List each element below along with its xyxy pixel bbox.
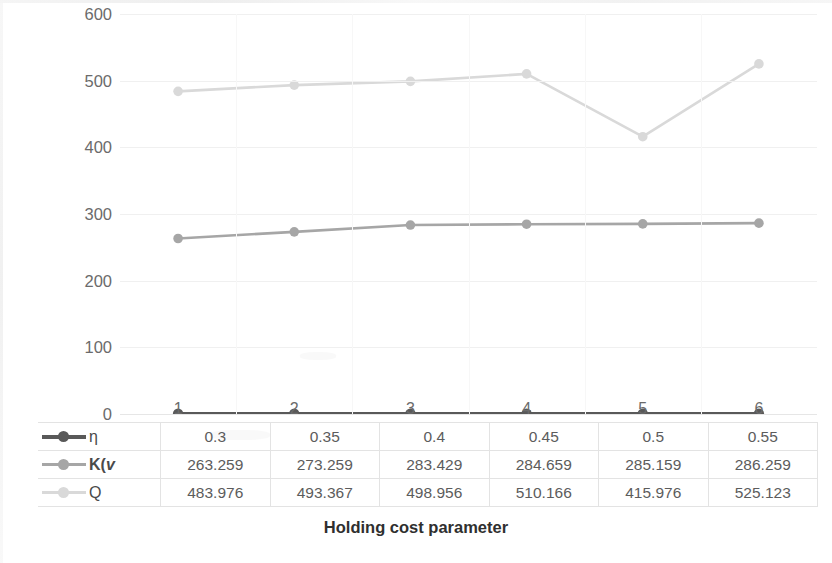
- table-row: η0.30.350.40.450.50.55: [38, 423, 818, 451]
- legend-marker-icon: [42, 487, 86, 499]
- x-axis-tick-label: 3: [390, 400, 430, 418]
- x-axis-tick-label: 6: [739, 400, 779, 418]
- vertical-gridline: [236, 14, 237, 414]
- legend-kv-variable: v: [106, 456, 115, 473]
- table-cell-value: 285.159: [599, 451, 709, 479]
- x-axis-tick-label: 5: [623, 400, 663, 418]
- table-cell-value: 415.976: [599, 479, 709, 507]
- x-axis-title: Holding cost parameter: [0, 518, 832, 537]
- legend-kv-prefix: K(: [89, 456, 106, 473]
- scan-artifact-top: [0, 0, 832, 3]
- table-cell-value: 263.259: [161, 451, 271, 479]
- vertical-gridline: [469, 14, 470, 414]
- vertical-gridline: [352, 14, 353, 414]
- table-cell-value: 273.259: [270, 451, 380, 479]
- table-row: Q483.976493.367498.956510.166415.976525.…: [38, 479, 818, 507]
- legend-marker-icon: [42, 459, 86, 471]
- legend-cell: Q: [38, 479, 161, 507]
- y-axis-tick-label: 500: [60, 72, 112, 89]
- data-point-marker: [638, 132, 648, 142]
- data-point-marker: [173, 87, 183, 97]
- table-cell-value: 283.429: [380, 451, 490, 479]
- table-cell-value: 0.55: [708, 423, 818, 451]
- table-cell-value: 0.35: [270, 423, 380, 451]
- y-axis-tick-label: 200: [60, 272, 112, 289]
- legend-marker-icon: [42, 431, 86, 443]
- data-point-marker: [173, 234, 183, 244]
- legend-series-name: K(v: [89, 456, 115, 474]
- vertical-gridline: [585, 14, 586, 414]
- table-cell-value: 498.956: [380, 479, 490, 507]
- table-cell-value: 286.259: [708, 451, 818, 479]
- vertical-gridline: [701, 14, 702, 414]
- table-cell-value: 0.45: [489, 423, 599, 451]
- x-axis-tick-label: 4: [507, 400, 547, 418]
- legend-cell: η: [38, 423, 161, 451]
- y-axis-tick-label: 300: [60, 206, 112, 223]
- data-point-marker: [522, 219, 532, 229]
- chart-data-table: η0.30.350.40.450.50.55K(v263.259273.2592…: [38, 422, 818, 507]
- y-axis-tick-label: 0: [60, 406, 112, 423]
- y-axis-tick-label: 600: [60, 6, 112, 23]
- legend-series-name: Q: [89, 484, 101, 502]
- data-point-marker: [522, 69, 532, 79]
- plot-area: [120, 14, 817, 414]
- table-row: K(v263.259273.259283.429284.659285.15928…: [38, 451, 818, 479]
- y-axis-tick-label: 100: [60, 339, 112, 356]
- table-cell-value: 0.5: [599, 423, 709, 451]
- table-cell-value: 483.976: [161, 479, 271, 507]
- data-point-marker: [754, 59, 764, 69]
- data-point-marker: [289, 80, 299, 90]
- data-point-marker: [289, 227, 299, 237]
- chart-container: Values of K(v) & Q 0100200300400500600 1…: [0, 0, 832, 563]
- x-axis-tick-labels: 123456: [120, 400, 817, 424]
- table-cell-value: 493.367: [270, 479, 380, 507]
- table-cell-value: 525.123: [708, 479, 818, 507]
- legend-cell: K(v: [38, 451, 161, 479]
- x-axis-tick-label: 2: [274, 400, 314, 418]
- table-cell-value: 0.3: [161, 423, 271, 451]
- data-point-marker: [638, 219, 648, 229]
- scan-artifact-left: [0, 0, 3, 563]
- legend-series-name: η: [89, 428, 98, 446]
- data-point-marker: [754, 218, 764, 228]
- data-point-marker: [406, 220, 416, 230]
- table-cell-value: 510.166: [489, 479, 599, 507]
- y-axis-tick-labels: 0100200300400500600: [60, 0, 112, 420]
- table-cell-value: 0.4: [380, 423, 490, 451]
- x-axis-tick-label: 1: [158, 400, 198, 418]
- y-axis-tick-label: 400: [60, 139, 112, 156]
- table-cell-value: 284.659: [489, 451, 599, 479]
